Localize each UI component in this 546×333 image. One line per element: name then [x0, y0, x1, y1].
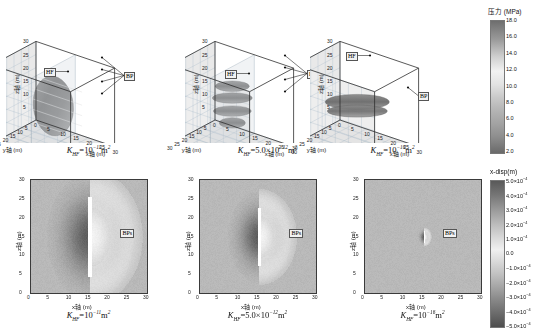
- ztick-20: 20: [202, 65, 208, 71]
- colorbar-tick-pressure-0: 18.0: [506, 17, 517, 23]
- xtick-0: 0: [213, 122, 216, 128]
- xtick-15: 15: [252, 135, 258, 141]
- panel-2d-case-2: KHF=5.0×10−12m2 051015202530051015202530…: [175, 175, 340, 330]
- annotation-hf: HF: [346, 52, 358, 61]
- ytick-30: 30: [353, 176, 359, 182]
- xtick-20: 20: [265, 140, 271, 146]
- colorbar-xdisp-title: x-disp(m): [490, 168, 517, 175]
- ztick-15: 15: [23, 78, 29, 84]
- ytick-10: 10: [196, 129, 202, 135]
- colorbar-pressure-title: 压力 (MPa): [488, 6, 522, 16]
- figure-canvas: KHF=10−11m2 5101520253005101520253051015…: [0, 0, 546, 333]
- ytick-5: 5: [353, 270, 356, 276]
- panel-3d-case-3: KHF=10−16m2 5101520253005101520253051015…: [310, 8, 475, 168]
- ztick-15: 15: [327, 78, 333, 84]
- ztick-5: 5: [202, 104, 205, 110]
- ztick-25: 25: [23, 52, 29, 58]
- ytick-10: 10: [353, 251, 359, 257]
- xtick-15: 15: [73, 135, 79, 141]
- panel-3d-case-1: KHF=10−11m2 5101520253005101520253051015…: [6, 8, 171, 168]
- xaxis-label: x轴 (m): [72, 302, 92, 311]
- ztick-10: 10: [327, 91, 333, 97]
- axes3d-p1: [6, 8, 171, 143]
- slice-canvas-p6: [365, 180, 481, 293]
- ytick-25: 25: [174, 141, 180, 147]
- ytick-0: 0: [353, 289, 356, 295]
- xtick-0: 0: [361, 294, 364, 300]
- colorbar-tick-pressure-7: 4.0: [506, 132, 514, 138]
- ytick-20: 20: [182, 137, 188, 143]
- ytick-5: 5: [204, 125, 207, 131]
- xaxis-label: x轴 (m): [241, 302, 261, 311]
- ytick-10: 10: [19, 251, 25, 257]
- yaxis-label: z轴 (m): [14, 231, 23, 251]
- ytick-10: 10: [321, 129, 327, 135]
- colorbar-gradient-pressure: [490, 20, 505, 154]
- xtick-20: 20: [273, 294, 279, 300]
- ytick-30: 30: [292, 145, 298, 151]
- xtick-30: 30: [477, 294, 483, 300]
- colorbar-tick-pressure-4: 10.0: [506, 83, 517, 89]
- colorbar-xdisp: x-disp(m) 5.0×10−44.0×10−43.0×10−42.0×10…: [488, 168, 546, 330]
- ytick-0: 0: [188, 289, 191, 295]
- box3d-1: [6, 8, 171, 143]
- ytick-10: 10: [188, 251, 194, 257]
- yaxis-label: y轴 (m): [182, 145, 202, 154]
- box3d-3: [310, 8, 475, 143]
- axes3d-p3: [310, 8, 475, 143]
- xtick-0: 0: [196, 294, 199, 300]
- colorbar-tick-pressure-6: 6.0: [506, 115, 514, 121]
- ytick-20: 20: [307, 137, 313, 143]
- colorbar-tick-x-disp-8: −3.0×10−4: [506, 293, 531, 300]
- ztick-15: 15: [202, 78, 208, 84]
- xtick-10: 10: [364, 131, 370, 137]
- ytick-25: 25: [0, 141, 1, 147]
- xtick-5: 5: [351, 126, 354, 132]
- colorbar-tick-x-disp-3: 2.0×10−4: [506, 221, 527, 228]
- xtick-15: 15: [254, 294, 260, 300]
- ytick-25: 25: [188, 195, 194, 201]
- ztick-5: 5: [327, 104, 330, 110]
- zaxis-label: z轴 (m): [316, 74, 325, 94]
- ztick-20: 20: [23, 65, 29, 71]
- colorbar-tick-x-disp-10: −5.0×10−4: [506, 322, 531, 329]
- colorbar-tick-x-disp-0: 5.0×10−4: [506, 177, 527, 184]
- colorbar-gradient-x-disp: [490, 180, 505, 328]
- xtick-30: 30: [113, 149, 119, 155]
- zaxis-label: z轴 (m): [12, 74, 21, 94]
- ytick-5: 5: [19, 270, 22, 276]
- ytick-30: 30: [188, 176, 194, 182]
- ytick-15: 15: [189, 133, 195, 139]
- xtick-25: 25: [124, 294, 130, 300]
- isosurface-p3: [325, 94, 389, 117]
- xtick-10: 10: [239, 131, 245, 137]
- ytick-5: 5: [25, 125, 28, 131]
- ztick-25: 25: [202, 52, 208, 58]
- ztick-10: 10: [202, 91, 208, 97]
- xtick-30: 30: [312, 294, 318, 300]
- colorbar-tick-x-disp-7: −2.0×10−4: [506, 279, 531, 286]
- colorbar-tick-pressure-1: 16.0: [506, 33, 517, 39]
- xtick-0: 0: [27, 294, 30, 300]
- ytick-15: 15: [314, 133, 320, 139]
- xtick-15: 15: [377, 135, 383, 141]
- xtick-20: 20: [104, 294, 110, 300]
- colorbar-tick-x-disp-6: −1.0×10−4: [506, 264, 531, 271]
- xtick-5: 5: [47, 126, 50, 132]
- ytick-5: 5: [188, 270, 191, 276]
- ztick-25: 25: [327, 52, 333, 58]
- xtick-10: 10: [235, 294, 241, 300]
- ytick-25: 25: [299, 141, 305, 147]
- xtick-15: 15: [85, 294, 91, 300]
- ztick-5: 5: [23, 104, 26, 110]
- ytick-0: 0: [19, 289, 22, 295]
- xtick-10: 10: [60, 131, 66, 137]
- xtick-25: 25: [293, 294, 299, 300]
- colorbar-tick-pressure-5: 8.0: [506, 99, 514, 105]
- ztick-30: 30: [327, 38, 333, 44]
- xtick-20: 20: [86, 140, 92, 146]
- ytick-30: 30: [167, 145, 173, 151]
- xtick-0: 0: [34, 122, 37, 128]
- ztick-10: 10: [23, 91, 29, 97]
- xaxis-label: x轴 (m): [390, 149, 410, 158]
